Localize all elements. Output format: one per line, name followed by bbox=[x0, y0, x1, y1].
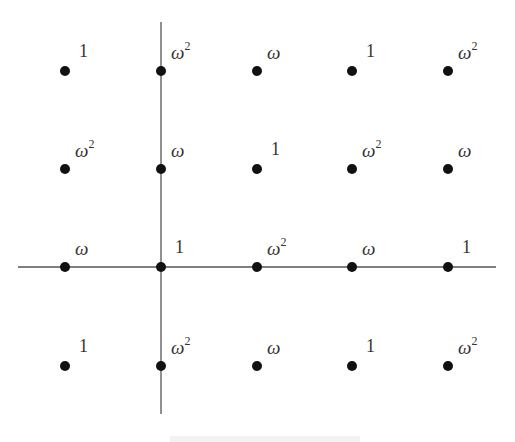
lattice-point bbox=[60, 361, 70, 371]
point-label: ω2 bbox=[75, 137, 94, 161]
point-label: ω2 bbox=[171, 39, 190, 63]
point-label: 1 bbox=[366, 41, 375, 61]
caption-cropped bbox=[170, 436, 360, 442]
point-label: 1 bbox=[175, 237, 184, 257]
point-label: ω2 bbox=[458, 39, 477, 63]
point-label: ω bbox=[267, 42, 280, 63]
point-label: ω bbox=[171, 140, 184, 161]
lattice-point bbox=[252, 262, 262, 272]
lattice-point bbox=[156, 66, 166, 76]
lattice-point bbox=[443, 164, 453, 174]
point-label: ω2 bbox=[171, 334, 190, 358]
omega-lattice-diagram: 1ω2ω1ω2ω2ω1ω2ωω1ω2ω11ω2ω1ω2 bbox=[0, 0, 515, 442]
lattice-point bbox=[156, 262, 166, 272]
lattice-point bbox=[347, 262, 357, 272]
point-label: 1 bbox=[366, 336, 375, 356]
point-label: ω2 bbox=[362, 137, 381, 161]
point-label: ω bbox=[458, 140, 471, 161]
point-label: 1 bbox=[271, 139, 280, 159]
point-label: 1 bbox=[79, 41, 88, 61]
point-label: ω bbox=[75, 238, 88, 259]
lattice-point bbox=[252, 164, 262, 174]
point-label: ω bbox=[267, 337, 280, 358]
lattice-point bbox=[443, 361, 453, 371]
point-label: ω bbox=[362, 238, 375, 259]
point-label: ω2 bbox=[458, 334, 477, 358]
lattice-point bbox=[60, 66, 70, 76]
lattice-point bbox=[347, 164, 357, 174]
lattice-point bbox=[347, 66, 357, 76]
lattice-point bbox=[252, 66, 262, 76]
lattice-point bbox=[156, 164, 166, 174]
lattice-point bbox=[156, 361, 166, 371]
lattice-point bbox=[60, 164, 70, 174]
lattice-point bbox=[347, 361, 357, 371]
point-label: ω2 bbox=[267, 235, 286, 259]
lattice-point bbox=[443, 66, 453, 76]
lattice-point bbox=[252, 361, 262, 371]
point-label: 1 bbox=[462, 237, 471, 257]
lattice-points: 1ω2ω1ω2ω2ω1ω2ωω1ω2ω11ω2ω1ω2 bbox=[60, 39, 477, 371]
lattice-point bbox=[443, 262, 453, 272]
point-label: 1 bbox=[79, 336, 88, 356]
lattice-point bbox=[60, 262, 70, 272]
